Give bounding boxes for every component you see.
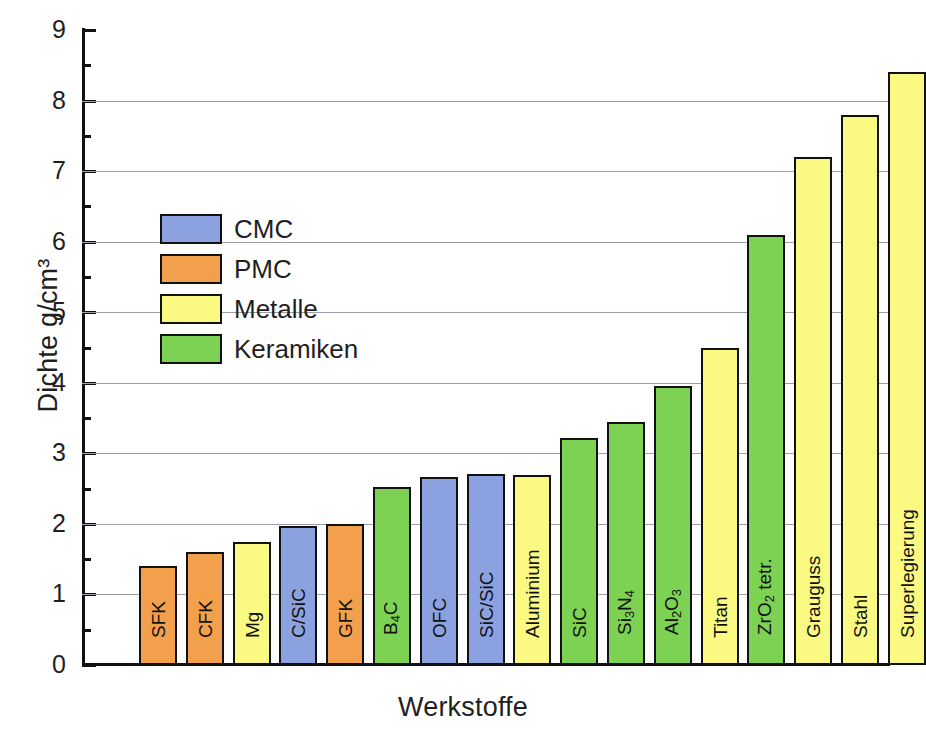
legend-swatch-metalle [160, 294, 222, 324]
bar-label: Grauguss [804, 556, 823, 638]
bar-c-sic[interactable]: C/SiC [279, 526, 317, 665]
bar-gfk[interactable]: GFK [326, 524, 364, 665]
y-axis-label: Dichte g/cm³ [33, 136, 64, 536]
bar-label: ZrO2 tetr. [756, 558, 778, 635]
bar-sic-sic[interactable]: SiC/SiC [467, 474, 505, 665]
gridline-7 [82, 171, 905, 172]
gridline-8 [82, 101, 905, 102]
y-tick-label-3: 3 [18, 440, 66, 465]
bar-aluminium[interactable]: Aluminium [513, 475, 551, 666]
legend-label: PMC [234, 256, 292, 282]
bar-label: Al2O3 [662, 589, 684, 635]
bar-label: Superlegierung [897, 509, 916, 638]
y-tick-label-2: 2 [18, 511, 66, 536]
y-tick-label-9: 9 [18, 17, 66, 42]
bar-label: Mg [242, 612, 261, 638]
bar-label: SiC/SiC [476, 571, 495, 638]
y-tick-label-7: 7 [18, 158, 66, 183]
y-tick-label-8: 8 [18, 88, 66, 113]
bar-titan[interactable]: Titan [701, 348, 739, 666]
bar-stahl[interactable]: Stahl [841, 115, 879, 665]
bar-cfk[interactable]: CFK [186, 552, 224, 665]
legend-swatch-pmc [160, 254, 222, 284]
legend-item-pmc[interactable]: PMC [160, 252, 358, 286]
bar-label: Stahl [851, 595, 870, 638]
x-axis-label: Werkstoffe [0, 692, 926, 723]
bar-label: GFK [336, 599, 355, 638]
y-tick-label-5: 5 [18, 299, 66, 324]
bar-zro2-tetr-[interactable]: ZrO2 tetr. [747, 235, 785, 665]
y-tick-label-1: 1 [18, 581, 66, 606]
y-tick-label-0: 0 [18, 652, 66, 677]
legend-item-keramiken[interactable]: Keramiken [160, 332, 358, 366]
bar-label: SiC [570, 607, 589, 638]
legend: CMCPMCMetalleKeramiken [160, 212, 358, 372]
bar-label: SFK [149, 601, 168, 638]
legend-label: CMC [234, 216, 293, 242]
bar-label: Titan [710, 596, 729, 638]
density-bar-chart: Dichte g/cm³ Werkstoffe 0123456789 SFKCF… [0, 0, 926, 738]
bar-label: C/SiC [289, 588, 308, 638]
bar-sic[interactable]: SiC [560, 438, 598, 665]
legend-swatch-keramiken [160, 334, 222, 364]
bar-si3n4[interactable]: Si3N4 [607, 422, 645, 665]
bar-label: Aluminium [523, 549, 542, 638]
bar-label: CFK [195, 600, 214, 638]
bar-label: Si3N4 [615, 590, 637, 635]
bar-label: OFC [429, 598, 448, 638]
bar-b4c[interactable]: B4C [373, 487, 411, 665]
bar-superlegierung[interactable]: Superlegierung [888, 72, 926, 665]
legend-item-cmc[interactable]: CMC [160, 212, 358, 246]
legend-label: Metalle [234, 296, 318, 322]
bar-mg[interactable]: Mg [233, 542, 271, 665]
y-tick-label-6: 6 [18, 229, 66, 254]
legend-item-metalle[interactable]: Metalle [160, 292, 358, 326]
bar-label: B4C [381, 602, 403, 636]
bar-sfk[interactable]: SFK [139, 566, 177, 665]
legend-label: Keramiken [234, 336, 358, 362]
bar-grauguss[interactable]: Grauguss [794, 157, 832, 665]
bar-al2o3[interactable]: Al2O3 [654, 386, 692, 665]
legend-swatch-cmc [160, 214, 222, 244]
bar-ofc[interactable]: OFC [420, 477, 458, 665]
y-tick-label-4: 4 [18, 370, 66, 395]
